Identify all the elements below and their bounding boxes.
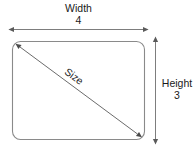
width-value-text: 4 — [0, 14, 157, 27]
width-dimension-label: Width 4 — [0, 2, 157, 27]
width-label-text: Width — [65, 2, 92, 14]
height-label-text: Height — [162, 77, 192, 89]
rectangle-dimension-diagram: Width 4 Height 3 Size — [0, 0, 194, 154]
height-value-text: 3 — [160, 89, 194, 102]
height-dimension-label: Height 3 — [160, 77, 194, 102]
